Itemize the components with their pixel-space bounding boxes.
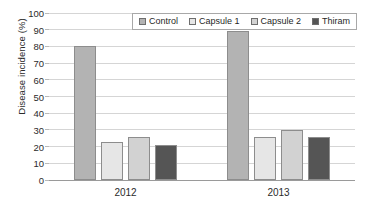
legend-swatch-icon bbox=[251, 18, 258, 25]
bar-chart: Disease incidence (%) 010203040506070809… bbox=[0, 0, 366, 215]
legend-swatch-icon bbox=[312, 18, 319, 25]
y-axis-tick-mark bbox=[45, 113, 49, 114]
y-axis-tick-label: 80 bbox=[33, 41, 44, 52]
y-axis-tick-mark bbox=[45, 79, 49, 80]
bar bbox=[74, 46, 96, 180]
y-axis-tick-label: 70 bbox=[33, 58, 44, 69]
legend-item-label: Control bbox=[149, 16, 178, 26]
legend-item-label: Thiram bbox=[322, 16, 350, 26]
bar bbox=[281, 130, 303, 180]
y-axis-tick-mark bbox=[45, 63, 49, 64]
legend-swatch-icon bbox=[189, 18, 196, 25]
y-axis-tick-label: 10 bbox=[33, 158, 44, 169]
y-axis-tick-label: 50 bbox=[33, 91, 44, 102]
x-axis-group-label: 2013 bbox=[267, 187, 289, 198]
y-axis-tick-label: 40 bbox=[33, 108, 44, 119]
y-axis-tick-mark bbox=[45, 96, 49, 97]
bar bbox=[155, 145, 177, 180]
y-axis-tick-mark bbox=[45, 46, 49, 47]
bar bbox=[254, 137, 276, 180]
y-axis-tick-label: 0 bbox=[39, 175, 44, 186]
chart-legend: ControlCapsule 1Capsule 2Thiram bbox=[132, 13, 357, 30]
y-axis-tick-mark bbox=[45, 163, 49, 164]
y-axis-tick-mark bbox=[45, 13, 49, 14]
bar bbox=[128, 137, 150, 180]
y-axis-tick-label: 20 bbox=[33, 141, 44, 152]
y-axis-tick-label: 30 bbox=[33, 124, 44, 135]
legend-swatch-icon bbox=[139, 18, 146, 25]
bar bbox=[308, 137, 330, 180]
y-axis-title: Disease incidence (%) bbox=[16, 0, 27, 142]
legend-item-label: Capsule 1 bbox=[199, 16, 240, 26]
legend-item[interactable]: Thiram bbox=[312, 16, 350, 26]
bar bbox=[101, 142, 123, 180]
y-axis-tick-label: 90 bbox=[33, 24, 44, 35]
y-axis-tick-mark bbox=[45, 146, 49, 147]
legend-item[interactable]: Control bbox=[139, 16, 178, 26]
y-axis-tick-mark bbox=[45, 29, 49, 30]
plot-area: 010203040506070809010020122013 bbox=[49, 13, 355, 180]
y-axis-tick-label: 100 bbox=[28, 8, 44, 19]
legend-item-label: Capsule 2 bbox=[261, 16, 302, 26]
y-axis-tick-mark bbox=[45, 180, 49, 181]
bar bbox=[227, 31, 249, 180]
legend-item[interactable]: Capsule 1 bbox=[189, 16, 240, 26]
x-axis-group-label: 2012 bbox=[114, 187, 136, 198]
y-axis-tick-label: 60 bbox=[33, 74, 44, 85]
y-axis-tick-mark bbox=[45, 129, 49, 130]
legend-item[interactable]: Capsule 2 bbox=[251, 16, 302, 26]
